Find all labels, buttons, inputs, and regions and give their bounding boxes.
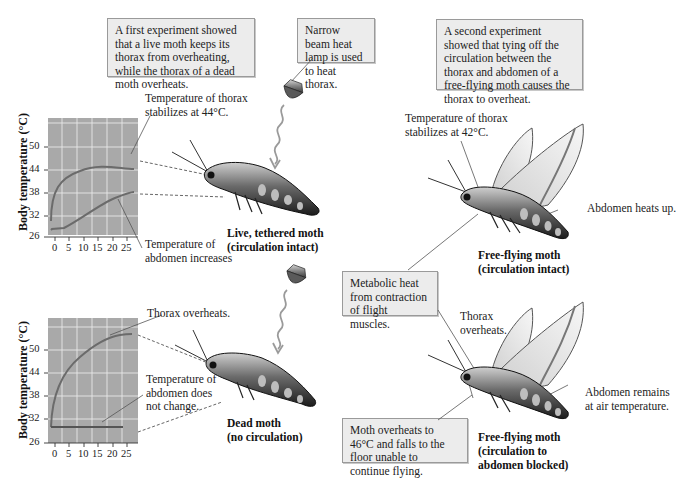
chart2-xtick: 0 <box>52 448 57 459</box>
plot-area <box>48 118 138 235</box>
chart2-xtick: 20 <box>107 448 118 459</box>
caption-dead-moth: Dead moth (no circulation) <box>227 416 303 444</box>
caption-free-blocked: Free-flying moth (circulation to abdomen… <box>478 430 568 472</box>
x-ticks <box>55 443 127 447</box>
label-abdomen-heats-up: Abdomen heats up. <box>587 202 676 216</box>
chart-live-moth <box>44 118 138 241</box>
chart2-xtick: 5 <box>66 448 71 459</box>
chart1-xtick: 0 <box>52 242 57 253</box>
chart2-ytick: 50 <box>29 343 40 354</box>
caption-live-moth: Live, tethered moth (circulation intact) <box>227 226 324 254</box>
chart-dead-moth <box>44 318 138 447</box>
chart1-ytick: 26 <box>29 230 40 241</box>
x-ticks <box>55 237 127 241</box>
heat-wave-icon <box>278 290 287 349</box>
chart2-xtick: 10 <box>78 448 89 459</box>
label-abdomen-increases: Temperature of abdomen increases <box>145 238 232 265</box>
heat-lamp-icon <box>284 263 309 286</box>
chart1-ytick: 50 <box>29 140 40 151</box>
chart2-ytick: 38 <box>29 389 40 400</box>
moth-live-tethered-icon <box>172 140 319 215</box>
chart1-xtick: 25 <box>121 242 132 253</box>
chart1-xtick: 10 <box>78 242 89 253</box>
label-abdomen-air-temp: Abdomen remains at air temperature. <box>585 386 670 413</box>
y-ticks <box>44 350 48 443</box>
y-ticks <box>44 147 48 237</box>
chart1-xtick: 5 <box>66 242 71 253</box>
label-thorax-stabilizes-42: Temperature of thorax stabilizes at 42°C… <box>405 112 508 139</box>
label-abdomen-no-change: Temperature of abdomen does not change. <box>146 373 216 414</box>
caption-free-intact: Free-flying moth (circulation intact) <box>478 248 569 276</box>
heat-wave-icon <box>275 105 284 164</box>
label-thorax-overheats-free: Thorax overheats. <box>460 310 507 337</box>
chart2-ytick: 44 <box>29 366 40 377</box>
chart2-ytick: 32 <box>29 412 40 423</box>
moth-free-flying-intact-icon <box>428 124 583 239</box>
label-thorax-stabilizes-44: Temperature of thorax stabilizes at 44°C… <box>145 92 248 119</box>
diagram-canvas <box>0 0 682 480</box>
chart1-xtick: 15 <box>92 242 103 253</box>
chart1-ytick: 38 <box>29 186 40 197</box>
chart2-xtick: 15 <box>92 448 103 459</box>
heat-lamp-icon <box>281 78 306 101</box>
chart1-ytick: 32 <box>29 209 40 220</box>
chart1-ytick: 44 <box>29 163 40 174</box>
chart2-ytick: 26 <box>29 436 40 447</box>
label-thorax-overheats-dead: Thorax overheats. <box>147 307 230 321</box>
chart2-xtick: 25 <box>121 448 132 459</box>
chart1-xtick: 20 <box>107 242 118 253</box>
